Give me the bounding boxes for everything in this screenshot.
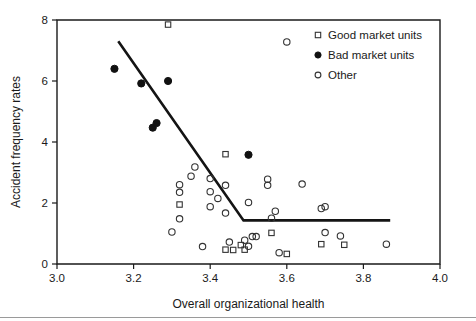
legend-marker-square: [315, 32, 320, 37]
data-point-open: [322, 229, 328, 235]
x-tick-label: 4.0: [432, 272, 448, 284]
data-point-open: [188, 173, 194, 179]
x-tick-label: 3.6: [279, 272, 295, 284]
data-point-open: [264, 182, 270, 188]
data-point-open: [299, 181, 305, 187]
data-point-open: [207, 203, 213, 209]
y-tick-label: 4: [42, 136, 49, 148]
data-point-open: [215, 195, 221, 201]
data-point-square: [165, 22, 170, 27]
data-point-open: [272, 208, 278, 214]
data-point-open: [264, 176, 270, 182]
data-point-open: [318, 205, 324, 211]
data-point-open: [276, 250, 282, 256]
data-point-open: [176, 216, 182, 222]
data-point-open: [207, 189, 213, 195]
data-point-filled: [164, 77, 171, 84]
legend-label-2: Other: [328, 69, 357, 81]
data-point-open: [192, 164, 198, 170]
data-point-square: [342, 242, 347, 247]
footer-divider: [0, 317, 476, 318]
data-point-filled: [153, 119, 160, 126]
legend-label-0: Good market units: [328, 29, 422, 41]
legend-marker-open: [315, 72, 321, 78]
data-point-open: [176, 189, 182, 195]
data-point-filled: [245, 151, 252, 158]
y-axis-title: Accident frequency rates: [9, 76, 23, 208]
data-point-square: [223, 247, 228, 252]
data-point-open: [253, 233, 259, 239]
y-tick-label: 6: [42, 75, 48, 87]
x-tick-label: 3.0: [49, 272, 65, 284]
data-point-square: [269, 230, 274, 235]
data-point-square: [177, 202, 182, 207]
data-point-open: [222, 210, 228, 216]
legend-label-1: Bad market units: [328, 49, 415, 61]
data-point-open: [284, 39, 290, 45]
scatter-chart: 3.03.23.43.63.84.002468Overall organizat…: [0, 0, 476, 321]
figure-container: 3.03.23.43.63.84.002468Overall organizat…: [0, 0, 476, 321]
data-point-open: [226, 239, 232, 245]
data-point-open: [383, 241, 389, 247]
data-point-open: [176, 182, 182, 188]
y-tick-label: 8: [42, 14, 48, 26]
data-point-filled: [138, 80, 145, 87]
data-point-open: [245, 199, 251, 205]
series-filled-circle: [111, 65, 252, 158]
y-tick-label: 2: [42, 197, 48, 209]
data-point-open: [337, 233, 343, 239]
legend-marker-filled: [315, 52, 321, 58]
x-axis-title: Overall organizational health: [172, 297, 324, 311]
data-point-square: [230, 247, 235, 252]
x-tick-label: 3.8: [355, 272, 371, 284]
y-tick-label: 0: [42, 258, 48, 270]
data-point-square: [223, 152, 228, 157]
data-point-filled: [111, 65, 118, 72]
data-point-open: [222, 182, 228, 188]
x-tick-label: 3.2: [126, 272, 142, 284]
data-point-open: [322, 203, 328, 209]
data-point-open: [207, 175, 213, 181]
data-point-square: [319, 241, 324, 246]
data-point-open: [199, 243, 205, 249]
data-point-open: [169, 229, 175, 235]
x-tick-label: 3.4: [202, 272, 219, 284]
data-point-open: [245, 243, 251, 249]
data-point-open: [241, 237, 247, 243]
data-point-square: [284, 251, 289, 256]
